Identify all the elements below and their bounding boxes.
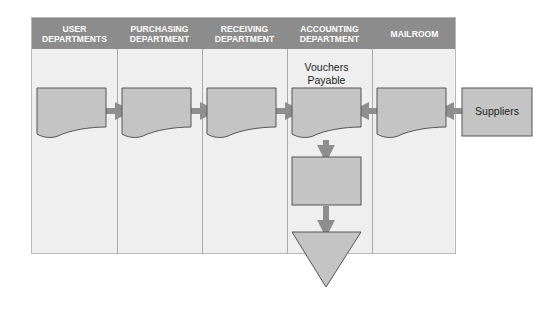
document-icon-mailroom — [377, 88, 446, 137]
label-line2: Payable — [308, 74, 346, 86]
document-icon-receiving — [207, 88, 276, 137]
vouchers-payable-label: Vouchers Payable — [292, 61, 361, 87]
label-line1: Vouchers — [305, 61, 349, 73]
document-icon-user-departments — [37, 88, 106, 137]
suppliers-label: Suppliers — [462, 105, 532, 118]
flowchart-shapes — [0, 0, 559, 310]
file-triangle-icon — [292, 232, 361, 287]
document-icon-vouchers-payable — [292, 88, 361, 137]
process-box — [292, 157, 361, 205]
document-icon-purchasing — [122, 88, 191, 137]
